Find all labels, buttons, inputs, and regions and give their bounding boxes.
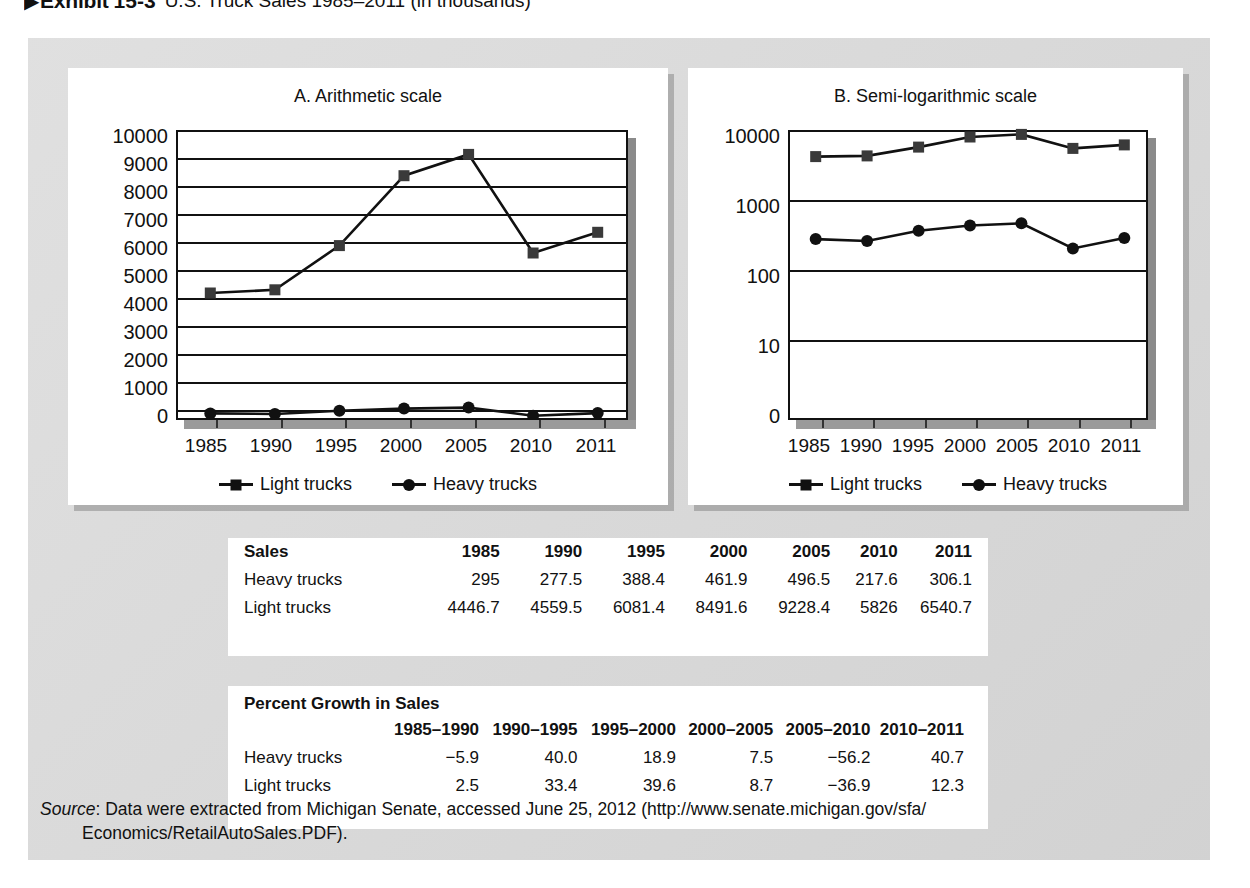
data-point-circle: [1067, 242, 1079, 254]
data-point-square: [399, 170, 410, 181]
chart-a-xaxis-band: [184, 420, 636, 429]
exhibit-label: Exhibit: [40, 0, 109, 13]
data-point-square: [1119, 139, 1130, 150]
chart-a-series-layer: [178, 132, 630, 422]
sales-cell: 461.9: [665, 566, 748, 594]
growth-cell: −36.9: [773, 772, 870, 800]
chart-b-plot-area: [788, 130, 1148, 420]
data-point-square: [862, 150, 873, 161]
chart-b-xaxis-band: [796, 420, 1156, 429]
source-label: Source: [40, 799, 95, 819]
legend-label-heavy-trucks: Heavy trucks: [433, 474, 537, 495]
data-point-circle: [333, 405, 345, 417]
growth-cell: −5.9: [378, 744, 479, 772]
chart-b-legend: Light trucks Heavy trucks: [748, 474, 1148, 495]
chart-b-title: B. Semi-logarithmic scale: [688, 86, 1183, 107]
data-point-circle: [913, 225, 925, 237]
exhibit-panel: A. Arithmetic scale 10000 9000 8000 7000…: [28, 38, 1210, 860]
x-axis-tick: [281, 420, 283, 428]
x-axis-tick: [345, 420, 347, 428]
data-point-circle: [204, 407, 216, 419]
table-row: Light trucks 2.5 33.4 39.6 8.7 −36.9 12.…: [228, 772, 988, 800]
growth-table: 1985–1990 1990–1995 1995–2000 2000–2005 …: [228, 716, 988, 800]
exhibit-number: 15-3: [114, 0, 156, 13]
exhibit-page: ▶ Exhibit 15-3 U.S. Truck Sales 1985–201…: [0, 0, 1250, 888]
sales-col-2005: 2005: [748, 538, 831, 566]
x-axis-tick: [475, 420, 477, 428]
table-row: Light trucks 4446.7 4559.5 6081.4 8491.6…: [228, 594, 988, 622]
chart-a-ytick-0: 0: [76, 406, 168, 426]
data-point-circle: [964, 220, 976, 232]
chart-a-plot-area: [176, 130, 628, 420]
chart-b-card: B. Semi-logarithmic scale 10000 1000 100…: [688, 68, 1183, 505]
chart-b-ytick-1000: 1000: [688, 196, 780, 216]
data-point-square: [1067, 143, 1078, 154]
chart-a-ytick-4000: 4000: [76, 294, 168, 314]
data-point-circle: [592, 407, 604, 419]
chart-a-ytick-2000: 2000: [76, 350, 168, 370]
growth-cell: 12.3: [871, 772, 988, 800]
x-axis-tick: [976, 420, 978, 428]
sales-cell: 4446.7: [420, 594, 499, 622]
chart-a-ytick-1000: 1000: [76, 378, 168, 398]
chart-a-ytick-10000: 10000: [76, 126, 168, 146]
sales-table-corner: Sales: [228, 538, 420, 566]
data-point-square: [592, 227, 603, 238]
chart-a-ytick-8000: 8000: [76, 182, 168, 202]
sales-cell: 295: [420, 566, 499, 594]
data-point-circle: [861, 235, 873, 247]
chart-b-ytick-100: 100: [688, 266, 780, 286]
legend-entry-heavy-trucks: Heavy trucks: [962, 474, 1107, 495]
sales-row-label-heavy: Heavy trucks: [228, 566, 420, 594]
legend-line-circle-icon: [962, 483, 996, 486]
exhibit-title: U.S. Truck Sales 1985–2011 (in thousands…: [165, 0, 531, 12]
chart-a-title: A. Arithmetic scale: [68, 86, 668, 107]
growth-table-corner: [228, 716, 378, 744]
chart-a-ytick-7000: 7000: [76, 210, 168, 230]
sales-col-1995: 1995: [582, 538, 665, 566]
growth-table-title: Percent Growth in Sales: [228, 686, 988, 716]
chart-b-ytick-10: 10: [688, 336, 780, 356]
x-axis-tick: [1079, 420, 1081, 428]
source-line-1: : Data were extracted from Michigan Sena…: [95, 799, 926, 819]
chart-a-ytick-6000: 6000: [76, 238, 168, 258]
growth-col-1985-1990: 1985–1990: [378, 716, 479, 744]
x-axis-tick: [873, 420, 875, 428]
x-axis-tick: [822, 420, 824, 428]
growth-cell: 33.4: [479, 772, 577, 800]
data-point-circle: [1118, 232, 1130, 244]
x-axis-tick: [604, 420, 606, 428]
exhibit-arrow-icon: ▶: [24, 0, 39, 11]
sales-col-2010: 2010: [830, 538, 898, 566]
growth-cell: 39.6: [578, 772, 676, 800]
chart-b-series-layer: [790, 132, 1150, 422]
legend-entry-light-trucks: Light trucks: [789, 474, 922, 495]
data-point-circle: [269, 408, 281, 420]
sales-table: Sales 1985 1990 1995 2000 2005 2010 2011…: [228, 538, 988, 622]
data-point-circle: [1015, 217, 1027, 229]
x-axis-tick: [216, 420, 218, 428]
growth-cell: 8.7: [676, 772, 773, 800]
data-point-square: [1016, 129, 1027, 140]
sales-table-card: Sales 1985 1990 1995 2000 2005 2010 2011…: [228, 538, 988, 656]
sales-cell: 277.5: [500, 566, 583, 594]
legend-entry-heavy-trucks: Heavy trucks: [392, 474, 537, 495]
table-header-row: 1985–1990 1990–1995 1995–2000 2000–2005 …: [228, 716, 988, 744]
sales-cell: 496.5: [748, 566, 831, 594]
sales-col-2011: 2011: [898, 538, 988, 566]
data-point-circle: [463, 402, 475, 414]
growth-cell: −56.2: [773, 744, 870, 772]
data-point-square: [965, 132, 976, 143]
data-point-circle: [398, 403, 410, 415]
sales-cell: 306.1: [898, 566, 988, 594]
growth-cell: 2.5: [378, 772, 479, 800]
growth-col-2005-2010: 2005–2010: [773, 716, 870, 744]
growth-col-1990-1995: 1990–1995: [479, 716, 577, 744]
legend-line-square-icon: [219, 483, 253, 486]
sales-col-2000: 2000: [665, 538, 748, 566]
growth-row-label-heavy: Heavy trucks: [228, 744, 378, 772]
legend-label-heavy-trucks: Heavy trucks: [1003, 474, 1107, 495]
chart-b-xtick: 2011: [1082, 436, 1160, 455]
sales-cell: 217.6: [830, 566, 898, 594]
sales-cell: 6540.7: [898, 594, 988, 622]
